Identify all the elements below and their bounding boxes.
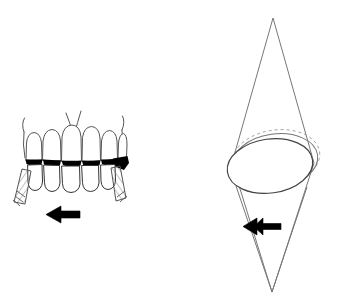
tooth-upper-2 <box>43 130 62 162</box>
figure-canvas: Frontal view of upper and lower anterior… <box>0 0 341 308</box>
tooth-upper-5 <box>101 131 118 161</box>
tooth-lower-3 <box>62 166 80 193</box>
tooth-lower-2 <box>44 165 60 192</box>
tooth-upper-6 <box>118 134 127 159</box>
tooth-upper-4 <box>82 127 101 162</box>
tooth-lower-4 <box>82 166 99 192</box>
tooth-upper-3 <box>62 125 82 162</box>
tooth-upper-1 <box>26 133 42 162</box>
illustration-svg <box>0 0 341 308</box>
